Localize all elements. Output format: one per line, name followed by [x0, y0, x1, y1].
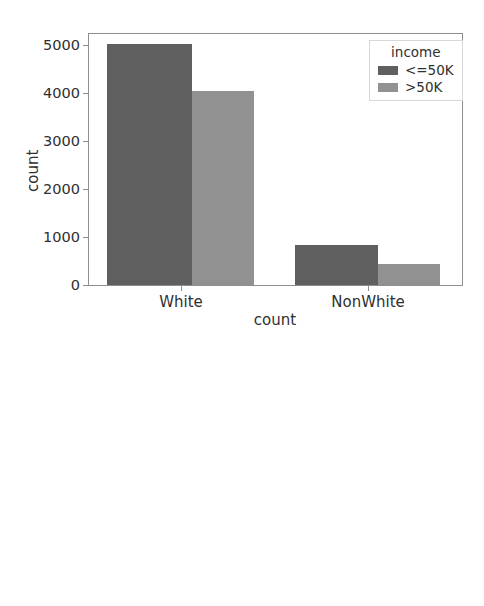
count-legend-item-le50k: <=50K	[378, 62, 454, 78]
ytick-label-3000: 3000	[43, 133, 80, 149]
xtick-label-white: White	[159, 293, 203, 311]
bar-white-le50k	[107, 44, 192, 285]
xtick-mark-nonwhite	[368, 286, 369, 291]
ytick-mark-2000	[83, 189, 88, 190]
ytick-label-4000: 4000	[43, 85, 80, 101]
percent-chart-figure: White Nonwhite white 0.0 0.2 0.4 0.6 0.8…	[0, 330, 484, 606]
bar-nonwhite-gt50k	[378, 264, 440, 285]
xtick-mark-white	[181, 286, 182, 291]
ytick-label-2000: 2000	[43, 181, 80, 197]
count-y-axis-title: count	[24, 150, 42, 192]
bar-nonwhite-le50k	[295, 245, 378, 285]
count-legend-title: income	[378, 45, 454, 60]
xtick-label-nonwhite: NonWhite	[331, 293, 405, 311]
legend-swatch-le50k-icon	[378, 66, 398, 75]
count-legend-item-gt50k: >50K	[378, 79, 454, 95]
ytick-label-5000: 5000	[43, 37, 80, 53]
ytick-mark-0	[83, 285, 88, 286]
legend-swatch-gt50k-icon	[378, 83, 398, 92]
count-chart-figure: 0 1000 2000 3000 4000 5000 count White N…	[0, 0, 484, 330]
count-legend-label-le50k: <=50K	[405, 62, 454, 78]
count-x-axis-title: count	[254, 311, 296, 329]
ytick-mark-1000	[83, 237, 88, 238]
ytick-label-0: 0	[71, 277, 80, 293]
count-legend-label-gt50k: >50K	[405, 79, 442, 95]
count-legend: income <=50K >50K	[369, 40, 463, 101]
ytick-mark-3000	[83, 141, 88, 142]
ytick-mark-4000	[83, 93, 88, 94]
ytick-label-1000: 1000	[43, 229, 80, 245]
bar-white-gt50k	[192, 91, 254, 285]
ytick-mark-5000	[83, 45, 88, 46]
